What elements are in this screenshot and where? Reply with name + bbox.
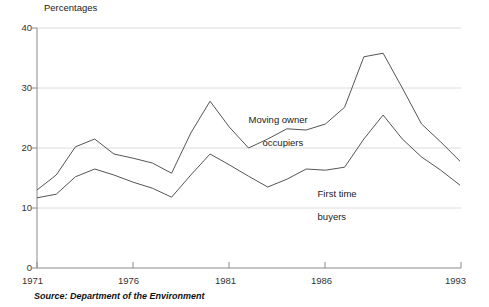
series-line-moving-owner-occupiers (37, 53, 460, 190)
source-note: Source: Department of the Environment (34, 291, 205, 302)
chart-container: Percentages 40 30 20 10 0 1971 1976 1981… (0, 0, 489, 307)
gridlines (37, 28, 461, 208)
x-axis-ticks (37, 262, 325, 268)
y-axis-ticks (32, 28, 37, 268)
plot-area (0, 0, 489, 307)
series-line-first-time-buyers (37, 115, 460, 198)
